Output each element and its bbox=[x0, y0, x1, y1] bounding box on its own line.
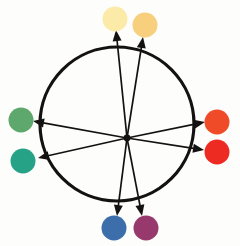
vector-origin-hub bbox=[124, 135, 131, 142]
vector-golden-yellow-arrowhead bbox=[137, 37, 146, 49]
vector-golden-yellow-shaft bbox=[127, 46, 142, 138]
hub-group bbox=[124, 135, 131, 142]
color-wheel-circle bbox=[40, 47, 194, 201]
vector-orange-red-shaft bbox=[127, 124, 196, 138]
swatch-blue bbox=[102, 216, 127, 241]
color-wheel-figure bbox=[0, 0, 240, 246]
vector-arrow-group bbox=[33, 30, 205, 216]
swatch-red bbox=[205, 140, 230, 165]
swatch-green bbox=[9, 108, 34, 133]
vector-magenta-arrowhead bbox=[136, 204, 145, 216]
swatch-pale-yellow bbox=[103, 7, 128, 32]
vector-pale-yellow-arrowhead bbox=[113, 30, 122, 41]
vector-teal-shaft bbox=[47, 138, 127, 156]
vector-pale-yellow-shaft bbox=[117, 39, 127, 138]
color-wheel-diagram bbox=[0, 0, 240, 246]
swatch-magenta bbox=[134, 216, 159, 241]
vector-green-shaft bbox=[42, 123, 127, 138]
vector-blue-shaft bbox=[118, 138, 127, 207]
vector-blue-arrowhead bbox=[114, 205, 123, 216]
swatch-teal bbox=[11, 149, 36, 174]
swatch-orange-red bbox=[205, 110, 230, 135]
vector-red-shaft bbox=[127, 138, 195, 149]
swatch-golden-yellow bbox=[133, 13, 158, 38]
vector-red-arrowhead bbox=[192, 144, 204, 153]
wheel-outline-group bbox=[40, 47, 194, 201]
